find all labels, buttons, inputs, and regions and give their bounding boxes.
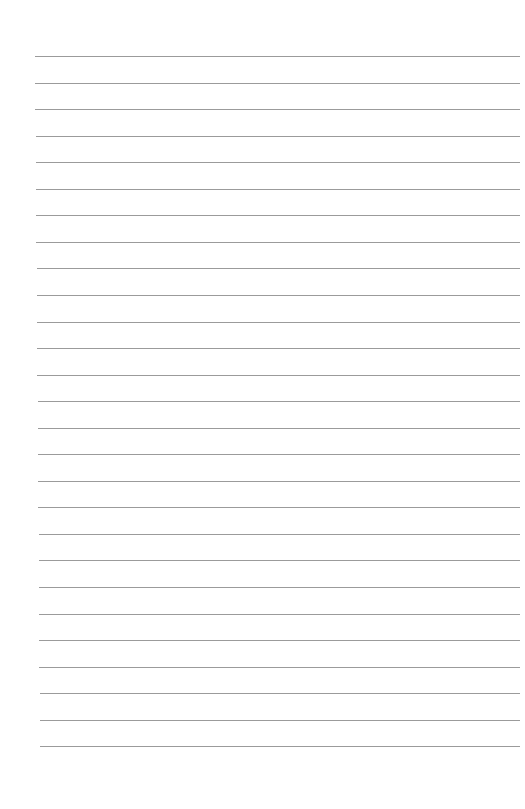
ruled-line [35,56,520,57]
ruled-line [37,268,521,269]
ruled-line [40,746,520,747]
ruled-line [38,481,520,482]
ruled-line [36,242,520,243]
ruled-line [37,375,520,376]
ruled-line [39,640,520,641]
ruled-line [37,322,520,323]
ruled-line [38,507,520,508]
ruled-line [36,215,520,216]
ruled-line [37,348,520,349]
ruled-line [39,560,520,561]
ruled-line [40,720,520,721]
ruled-line [39,667,520,668]
ruled-line [36,189,520,190]
ruled-line [38,401,521,402]
ruled-line [37,295,520,296]
ruled-line [39,534,521,535]
ruled-line [39,587,520,588]
ruled-line [36,136,520,137]
ruled-line [38,454,520,455]
ruled-line [36,162,520,163]
ruled-line [39,614,520,615]
ruled-line [38,428,520,429]
ruled-line [40,693,520,694]
ruled-line [35,109,520,110]
ruled-line [35,83,520,84]
